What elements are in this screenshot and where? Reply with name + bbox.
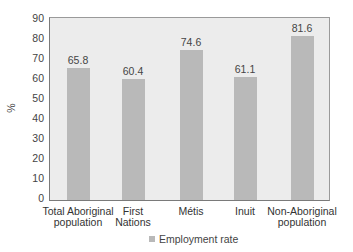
bar — [234, 77, 257, 200]
legend-label: Employment rate — [159, 233, 238, 245]
y-tick: 20 — [20, 152, 44, 164]
x-label-line: Nations — [88, 217, 178, 228]
bar — [67, 68, 90, 200]
y-tick: 80 — [20, 32, 44, 44]
y-axis-label: % — [5, 103, 17, 112]
bar-value-label: 65.8 — [58, 54, 98, 66]
bar — [180, 50, 203, 200]
y-tick: 0 — [20, 192, 44, 204]
bar-value-label: 74.6 — [171, 36, 211, 48]
y-tick: 60 — [20, 72, 44, 84]
x-category-label: Non-Aboriginal population — [257, 206, 347, 228]
x-label-line: population — [257, 217, 347, 228]
bar-value-label: 81.6 — [282, 22, 322, 34]
legend: Employment rate — [149, 233, 238, 245]
y-tick: 30 — [20, 132, 44, 144]
bar — [291, 36, 314, 200]
y-tick: 10 — [20, 172, 44, 184]
y-tick: 90 — [20, 12, 44, 24]
y-tick: 70 — [20, 52, 44, 64]
y-tick: 40 — [20, 112, 44, 124]
bar-value-label: 60.4 — [113, 65, 153, 77]
y-tick: 50 — [20, 92, 44, 104]
bar-chart: % 90 80 70 60 50 40 30 20 10 0 65.860.47… — [0, 0, 353, 252]
bar — [122, 79, 145, 200]
legend-swatch-icon — [149, 236, 155, 242]
bar-value-label: 61.1 — [225, 63, 265, 75]
